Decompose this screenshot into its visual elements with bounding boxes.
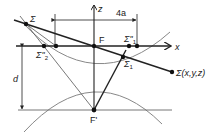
point-fprime: [92, 108, 97, 113]
ray-sigma1-to-fprime: [94, 50, 126, 110]
label-fprime: F': [90, 115, 97, 125]
point-sigma2-prime: [42, 44, 46, 48]
label-sigma2-prime: Σ''2: [35, 50, 49, 61]
label-sigma: Σ: [29, 14, 36, 24]
label-z: z: [97, 4, 103, 14]
label-f: F: [99, 35, 105, 45]
label-sigma-xyz: Σ(x,y,z): [175, 68, 205, 78]
label-sigma1-prime: Σ''1: [123, 34, 137, 45]
point-x-left: [54, 44, 58, 48]
label-d: d: [13, 74, 19, 84]
ray-sigma-to-fprime: [20, 16, 94, 110]
label-4a: 4a: [116, 8, 126, 18]
label-sigma1: Σ1: [123, 59, 133, 70]
point-f: [92, 44, 96, 48]
point-sigma1-prime: [127, 44, 131, 48]
ray-geometry-diagram: z x F F' Σ Σ(x,y,z) Σ''2 Σ''1 Σ1 4a d: [0, 0, 223, 138]
point-sigma-xyz: [170, 70, 174, 74]
point-sigma: [24, 22, 28, 26]
label-x: x: [174, 42, 180, 52]
